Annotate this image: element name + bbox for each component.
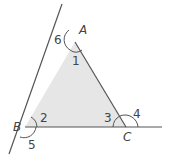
angle-arc-6 — [64, 30, 70, 50]
angle-arc-5 — [20, 127, 36, 138]
triangle-diagram: A B C 1 2 3 4 5 6 — [0, 0, 171, 161]
angle-label-3: 3 — [104, 111, 112, 125]
angle-label-2: 2 — [40, 111, 48, 125]
diagram-svg: A B C 1 2 3 4 5 6 — [0, 0, 171, 161]
angle-label-4: 4 — [133, 107, 141, 121]
angle-label-6: 6 — [54, 33, 62, 47]
vertex-label-a: A — [78, 23, 87, 37]
vertex-label-b: B — [13, 120, 21, 134]
angle-label-1: 1 — [72, 54, 80, 68]
angle-label-5: 5 — [28, 138, 36, 152]
vertex-label-c: C — [123, 130, 132, 144]
